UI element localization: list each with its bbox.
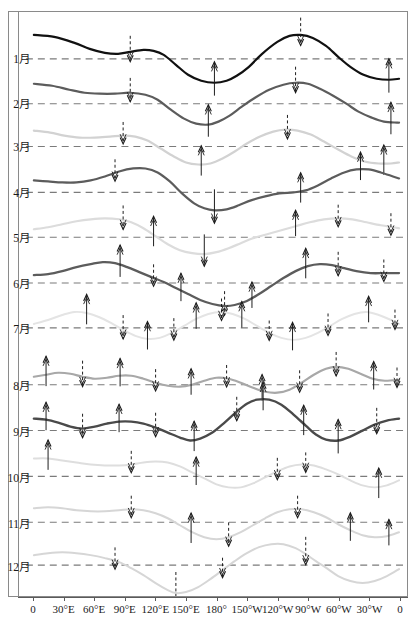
- descent-arrow: [128, 496, 134, 518]
- month-label-4: 4月: [0, 184, 30, 200]
- ascent-arrow: [260, 382, 266, 410]
- x-tick-4: [155, 597, 156, 601]
- descent-arrow: [392, 310, 398, 330]
- x-tick-8: [278, 597, 279, 601]
- descent-arrow: [297, 370, 303, 392]
- descent-arrow: [295, 496, 301, 518]
- x-tick-10: [339, 597, 340, 601]
- series-group: [26, 537, 405, 596]
- ascent-arrow: [366, 296, 372, 322]
- descent-arrow: [303, 452, 309, 472]
- series-group: [26, 352, 405, 401]
- series-curve: [34, 507, 399, 539]
- descent-arrow: [333, 352, 339, 376]
- series-group: [26, 115, 405, 176]
- month-label-6: 6月: [0, 275, 30, 291]
- descent-arrow: [80, 414, 86, 438]
- descent-arrow: [112, 547, 118, 569]
- month-label-10: 10月: [0, 469, 30, 485]
- month-label-5: 5月: [0, 229, 30, 245]
- ascent-arrow: [381, 145, 387, 175]
- longitude-label-11: 30°W: [357, 603, 383, 615]
- descent-arrow: [80, 361, 86, 387]
- ascent-arrow: [388, 102, 394, 134]
- descent-arrow: [298, 18, 304, 46]
- longitude-label-9: 90°W: [295, 603, 321, 615]
- descent-arrow: [153, 413, 159, 437]
- x-tick-11: [369, 597, 370, 601]
- series-curve: [34, 312, 399, 340]
- longitude-label-7: 150°W: [231, 603, 262, 615]
- x-tick-6: [217, 597, 218, 601]
- ascent-arrow: [198, 146, 204, 176]
- x-tick-2: [94, 597, 95, 601]
- month-label-7: 7月: [0, 320, 30, 336]
- month-label-1: 1月: [0, 50, 30, 66]
- x-tick-12: [400, 597, 401, 601]
- ascent-arrow: [43, 356, 49, 386]
- series-group: [26, 440, 405, 498]
- longitude-axis-labels: 030°E60°E90°E120°E150°E180°150°W120°W90°…: [0, 603, 417, 621]
- ascent-arrow: [290, 322, 296, 350]
- longitude-label-8: 120°W: [262, 603, 293, 615]
- x-tick-1: [64, 597, 65, 601]
- descent-arrow: [128, 451, 134, 473]
- descent-arrow: [224, 365, 230, 387]
- ascent-arrow: [193, 303, 199, 329]
- longitude-label-2: 60°E: [83, 603, 105, 615]
- ascent-arrow: [43, 402, 49, 430]
- ascent-arrow: [193, 457, 199, 485]
- descent-arrow: [335, 252, 341, 276]
- descent-arrow: [226, 522, 232, 546]
- ascent-arrow: [151, 216, 157, 246]
- month-label-9: 9月: [0, 423, 30, 439]
- descent-arrow: [127, 78, 133, 102]
- ascent-arrow: [386, 59, 392, 93]
- ascent-arrow: [371, 362, 377, 390]
- longitude-label-4: 120°E: [142, 603, 170, 615]
- x-tick-7: [247, 597, 248, 601]
- x-tick-9: [308, 597, 309, 601]
- ascent-arrow: [298, 173, 304, 203]
- x-tick-5: [186, 597, 187, 601]
- ascent-arrow: [116, 404, 122, 432]
- month-label-11: 11月: [0, 515, 30, 531]
- longitude-label-3: 90°E: [114, 603, 136, 615]
- longitude-label-5: 150°E: [172, 603, 200, 615]
- series-curve: [34, 458, 399, 487]
- series-group: [26, 205, 405, 267]
- ascent-arrow: [358, 152, 364, 180]
- ascent-arrow: [335, 420, 341, 454]
- series-curve: [34, 168, 399, 210]
- ascent-arrow: [376, 468, 382, 498]
- descent-arrow: [303, 537, 309, 565]
- ascent-arrow: [188, 513, 194, 543]
- descent-arrow: [171, 318, 177, 340]
- ascent-arrow: [303, 248, 309, 278]
- longitude-label-6: 180°: [206, 603, 227, 615]
- descent-arrow: [153, 369, 159, 391]
- ascent-arrow: [249, 282, 255, 308]
- series-group: [26, 18, 405, 96]
- ascent-arrow: [191, 421, 197, 451]
- descent-arrow: [266, 321, 272, 341]
- descent-arrow: [201, 234, 207, 266]
- ascent-arrow: [84, 294, 90, 324]
- x-tick-0: [33, 597, 34, 601]
- descent-arrow: [325, 313, 331, 335]
- descent-arrow: [127, 36, 133, 62]
- descent-arrow: [381, 260, 387, 282]
- series-curve: [34, 544, 399, 593]
- month-label-3: 3月: [0, 138, 30, 154]
- chart-plot-area: [9, 12, 407, 596]
- series-group: [26, 382, 405, 453]
- ascent-arrow: [211, 62, 217, 96]
- descent-arrow: [211, 189, 217, 223]
- month-label-2: 2月: [0, 95, 30, 111]
- descent-arrow: [120, 122, 126, 144]
- longitude-label-10: 60°W: [326, 603, 352, 615]
- series-curve: [34, 399, 399, 441]
- series-group: [26, 245, 405, 315]
- longitude-label-0: 0: [30, 603, 36, 615]
- descent-arrow: [293, 67, 299, 93]
